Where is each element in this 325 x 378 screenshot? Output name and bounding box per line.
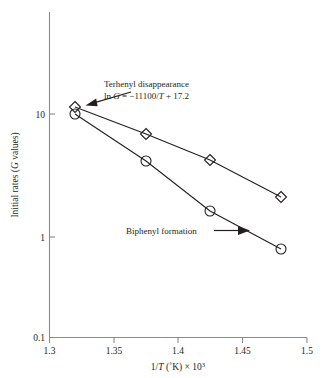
y-tick-label-0-1: 0.1 [33,333,45,343]
x-axis-title: 1/T (˚K) × 103 [151,361,206,374]
y-axis-title-prefix: Initial rates ( [10,169,21,218]
series-terphenyl-line [75,107,281,197]
y-tick-label-10: 10 [36,110,46,120]
x-tick-label-1-4: 1.4 [172,346,184,356]
y-axis-ticks: 10 1 0.1 [33,110,55,344]
x-tick-label-1-45: 1.45 [234,346,251,356]
x-axis-title-mid: (˚K) × 10 [164,362,203,373]
x-tick-label-1-5: 1.5 [301,346,313,356]
series-terphenyl-disappearance [70,102,287,203]
y-axis-title-suffix: values) [10,132,21,162]
annotation-biphenyl: Biphenyl formation [126,226,250,236]
x-tick-label-1-35: 1.35 [106,346,123,356]
annotation-terphenyl-line1: Terhenyl disappearance [104,79,189,89]
annotation-terphenyl-eq-b: = −11100/ [120,91,159,101]
y-tick-label-1: 1 [40,233,45,243]
annotation-terphenyl-eq-c: + 17.2 [164,91,189,101]
annotation-biphenyl-line1: Biphenyl formation [126,226,197,236]
chart-figure: 10 1 0.1 1.3 1.35 1.4 1.45 1.5 1/T (˚K) … [0,0,325,378]
chart-svg: 10 1 0.1 1.3 1.35 1.4 1.45 1.5 1/T (˚K) … [0,0,325,378]
x-axis-title-exponent: 3 [202,361,206,368]
arrow-down-left-icon [86,99,98,107]
arrow-right-icon [238,226,250,235]
y-axis-title: Initial rates (G values) [10,132,21,217]
annotation-terphenyl: Terhenyl disappearance ln G = −11100/T +… [86,79,190,106]
x-axis-ticks: 1.3 1.35 1.4 1.45 1.5 [44,338,314,357]
axes-group [50,12,308,338]
x-tick-label-1-3: 1.3 [44,346,56,356]
